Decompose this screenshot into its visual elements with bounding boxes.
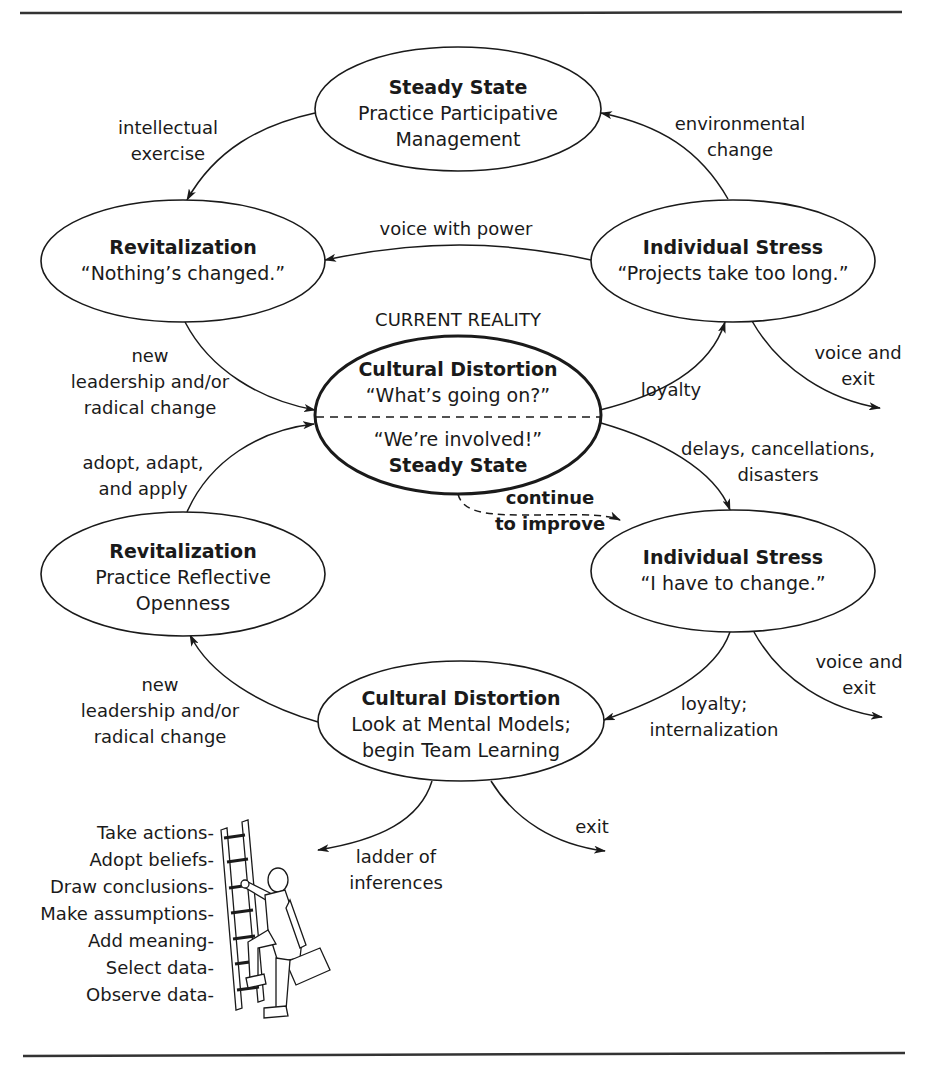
ladder-step: Select data- (106, 957, 214, 978)
current-reality-caption: CURRENT REALITY (375, 309, 542, 330)
node-steady-state-top: Steady State Practice Participative Mana… (315, 47, 601, 171)
svg-text:change: change (707, 139, 773, 160)
node-line: Management (395, 128, 520, 150)
label-new-leadership-bottom: new leadership and/or radical change (81, 674, 240, 747)
label-continue-improve: continue to improve (495, 487, 605, 534)
edge-delays (601, 423, 730, 510)
node-title: Individual Stress (643, 546, 823, 568)
svg-text:voice and: voice and (814, 342, 901, 363)
svg-text:continue: continue (506, 487, 594, 508)
label-voice-with-power: voice with power (380, 218, 534, 239)
ladder-step: Add meaning- (88, 930, 214, 951)
node-line: begin Team Learning (362, 739, 560, 761)
node-line: “Projects take too long.” (618, 262, 849, 284)
node-line: “What’s going on?” (366, 384, 550, 406)
node-line: Practice Participative (358, 102, 558, 124)
node-individual-stress-top: Individual Stress “Projects take too lon… (591, 200, 875, 322)
edge-voice-exit-top (752, 321, 880, 408)
svg-text:leadership and/or: leadership and/or (71, 371, 230, 392)
svg-text:disasters: disasters (737, 464, 818, 485)
bottom-rule (23, 1053, 905, 1056)
svg-text:new: new (131, 345, 168, 366)
label-new-leadership-top: new leadership and/or radical change (71, 345, 230, 418)
node-title: Cultural Distortion (361, 687, 560, 709)
label-intellectual-exercise: intellectual exercise (118, 117, 218, 164)
svg-text:internalization: internalization (649, 719, 778, 740)
label-adopt-adapt-apply: adopt, adapt, and apply (82, 452, 203, 499)
ladder-step: Take actions- (96, 822, 214, 843)
node-line: “I have to change.” (640, 572, 825, 594)
ladder-step: Observe data- (86, 984, 214, 1005)
organizational-change-cycle-diagram: Steady State Practice Participative Mana… (0, 0, 944, 1069)
node-cultural-distortion-bottom: Cultural Distortion Look at Mental Model… (318, 661, 604, 781)
svg-text:delays, cancellations,: delays, cancellations, (681, 438, 875, 459)
svg-text:exit: exit (842, 677, 875, 698)
node-title: Individual Stress (643, 236, 823, 258)
ladder-step: Adopt beliefs- (90, 849, 214, 870)
ladder-step: Make assumptions- (40, 903, 214, 924)
node-line: “Nothing’s changed.” (81, 262, 285, 284)
svg-text:inferences: inferences (349, 872, 443, 893)
ladder-steps-list: Take actions- Adopt beliefs- Draw conclu… (40, 822, 214, 1005)
svg-text:environmental: environmental (675, 113, 806, 134)
svg-text:and apply: and apply (98, 478, 187, 499)
edge-ladder-of-inferences (318, 781, 432, 850)
svg-text:voice and: voice and (815, 651, 902, 672)
svg-text:exercise: exercise (131, 143, 205, 164)
node-line: Practice Reflective (95, 566, 271, 588)
svg-text:voice with power: voice with power (380, 218, 534, 239)
label-delays: delays, cancellations, disasters (681, 438, 875, 485)
node-revitalization-top: Revitalization “Nothing’s changed.” (41, 200, 325, 322)
svg-text:loyalty;: loyalty; (681, 693, 747, 714)
label-voice-exit-top: voice and exit (814, 342, 901, 389)
edge-adopt-adapt-apply (187, 424, 314, 512)
svg-text:intellectual: intellectual (118, 117, 218, 138)
node-revitalization-bottom: Revitalization Practice Reflective Openn… (41, 512, 325, 636)
svg-text:radical change: radical change (84, 397, 217, 418)
svg-text:adopt, adapt,: adopt, adapt, (82, 452, 203, 473)
node-title: Revitalization (109, 540, 256, 562)
node-line: Openness (136, 592, 230, 614)
ladder-step: Draw conclusions- (50, 876, 214, 897)
label-voice-exit-bottom: voice and exit (815, 651, 902, 698)
label-loyalty-internalization: loyalty; internalization (649, 693, 778, 740)
svg-text:radical change: radical change (94, 726, 227, 747)
node-line: “We’re involved!” (374, 428, 542, 450)
svg-text:loyalty: loyalty (641, 379, 702, 400)
svg-text:exit: exit (841, 368, 874, 389)
climbing-businessman-icon (241, 868, 330, 1018)
label-ladder-of-inferences: ladder of inferences (349, 846, 443, 893)
edge-voice-with-power (325, 245, 591, 260)
svg-text:leadership and/or: leadership and/or (81, 700, 240, 721)
top-rule-right (502, 12, 902, 13)
node-title: Cultural Distortion (358, 358, 557, 380)
node-title: Steady State (389, 454, 528, 476)
label-exit: exit (575, 816, 608, 837)
label-loyalty: loyalty (641, 379, 702, 400)
node-title: Steady State (389, 76, 528, 98)
node-line: Look at Mental Models; (351, 713, 571, 735)
node-title: Revitalization (109, 236, 256, 258)
svg-text:new: new (141, 674, 178, 695)
svg-text:exit: exit (575, 816, 608, 837)
svg-text:to improve: to improve (495, 513, 605, 534)
svg-text:ladder of: ladder of (356, 846, 437, 867)
label-environmental-change: environmental change (675, 113, 806, 160)
edge-voice-exit-bottom (754, 632, 882, 717)
node-cultural-distortion-center: Cultural Distortion “What’s going on?” “… (315, 336, 601, 494)
node-individual-stress-bottom: Individual Stress “I have to change.” (591, 510, 875, 632)
